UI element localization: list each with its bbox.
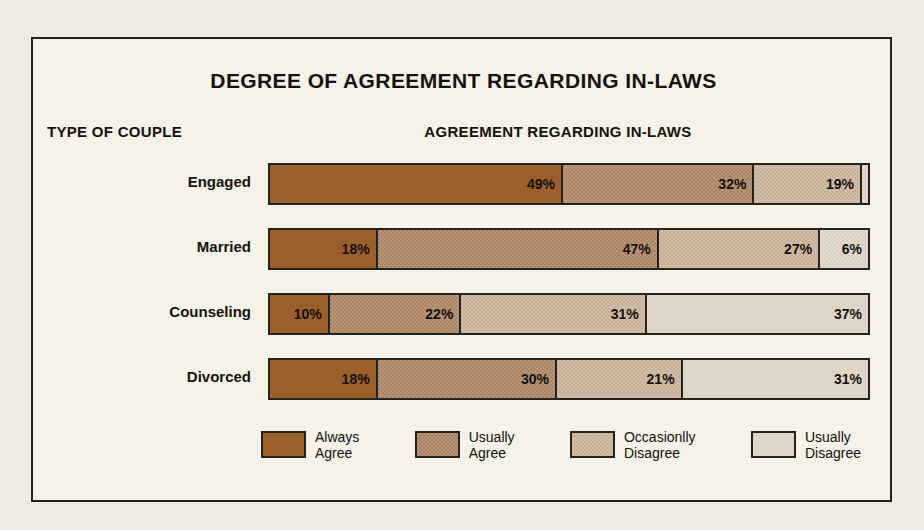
bar-segment-occasionally-disagree[interactable]: 21% xyxy=(557,360,683,398)
bar-row-label: Engaged xyxy=(33,173,251,190)
bar-segment-value: 47% xyxy=(623,241,651,257)
y-axis-title: TYPE OF COUPLE xyxy=(47,123,182,140)
bar-segment-value: 27% xyxy=(784,241,812,257)
bar-segment-value: 30% xyxy=(521,371,549,387)
bar-track: 10% 22% 31% 37% xyxy=(268,293,870,335)
bar-row: Engaged 49% 32% 19% 1 xyxy=(33,163,894,205)
legend-swatch-icon xyxy=(261,431,306,458)
bar-track: 18% 30% 21% 31% xyxy=(268,358,870,400)
bar-segment-always-agree[interactable]: 18% xyxy=(270,360,378,398)
legend-item-occasionally-disagree[interactable]: Occasionlly Disagree xyxy=(570,429,696,481)
bar-row-label: Divorced xyxy=(33,368,251,385)
bar-segment-value: 37% xyxy=(834,306,862,322)
legend-item-usually-disagree[interactable]: Usually Disagree xyxy=(751,429,861,481)
axis-header-row: TYPE OF COUPLE AGREEMENT REGARDING IN-LA… xyxy=(33,123,894,143)
bar-segment-always-agree[interactable]: 18% xyxy=(270,230,378,268)
legend-label-line1: Usually xyxy=(469,429,515,445)
bar-row: Married 18% 47% 27% 6% xyxy=(33,228,894,270)
bar-segment-usually-agree[interactable]: 22% xyxy=(330,295,462,333)
bar-segment-always-agree[interactable]: 49% xyxy=(270,165,563,203)
legend-label-line1: Usually xyxy=(805,429,861,445)
bar-segment-occasionally-disagree[interactable]: 19% xyxy=(754,165,862,203)
legend-swatch-icon xyxy=(751,431,796,458)
bar-segment-always-agree[interactable]: 10% xyxy=(270,295,330,333)
bar-segment-value: 31% xyxy=(611,306,639,322)
chart-panel: DEGREE OF AGREEMENT REGARDING IN-LAWS TY… xyxy=(31,37,892,502)
legend-label-line2: Disagree xyxy=(805,445,861,461)
bar-segment-value: 49% xyxy=(527,176,555,192)
bar-segment-usually-disagree[interactable]: 31% xyxy=(683,360,868,398)
legend-label: Occasionlly Disagree xyxy=(624,429,696,461)
legend-label-line1: Always xyxy=(315,429,359,445)
bar-segment-value: 22% xyxy=(425,306,453,322)
bar-segment-usually-agree[interactable]: 32% xyxy=(563,165,754,203)
bar-segment-value: 21% xyxy=(647,371,675,387)
bar-segment-occasionally-disagree[interactable]: 31% xyxy=(461,295,646,333)
bar-segment-value: 6% xyxy=(842,241,862,257)
x-axis-title: AGREEMENT REGARDING IN-LAWS xyxy=(258,123,858,140)
legend-item-always-agree[interactable]: Always Agree xyxy=(261,429,359,481)
legend-swatch-icon xyxy=(415,431,460,458)
bar-segment-occasionally-disagree[interactable]: 27% xyxy=(659,230,820,268)
legend-label-line1: Occasionlly xyxy=(624,429,696,445)
bar-track: 49% 32% 19% 1 xyxy=(268,163,870,205)
bar-segment-usually-disagree[interactable]: 37% xyxy=(647,295,868,333)
legend-label-line2: Agree xyxy=(469,445,515,461)
chart-legend: Always Agree Usually Agree Occasionlly D… xyxy=(261,429,861,481)
chart-title: DEGREE OF AGREEMENT REGARDING IN-LAWS xyxy=(33,69,894,93)
legend-swatch-icon xyxy=(570,431,615,458)
bar-segment-usually-agree[interactable]: 30% xyxy=(378,360,557,398)
bar-segment-usually-disagree[interactable]: 6% xyxy=(820,230,868,268)
bar-segment-value: 31% xyxy=(834,371,862,387)
legend-label: Always Agree xyxy=(315,429,359,461)
legend-label: Usually Disagree xyxy=(805,429,861,461)
legend-label-line2: Agree xyxy=(315,445,359,461)
bar-row: Divorced 18% 30% 21% 31% xyxy=(33,358,894,400)
bar-segment-value: 19% xyxy=(826,176,854,192)
legend-item-usually-agree[interactable]: Usually Agree xyxy=(415,429,515,481)
bar-segment-value: 18% xyxy=(342,241,370,257)
legend-label: Usually Agree xyxy=(469,429,515,461)
bar-segment-usually-agree[interactable]: 47% xyxy=(378,230,659,268)
bar-segment-value: 32% xyxy=(718,176,746,192)
bar-segment-value: 10% xyxy=(294,306,322,322)
legend-label-line2: Disagree xyxy=(624,445,696,461)
bar-segment-value: 18% xyxy=(342,371,370,387)
bar-row: Counseling 10% 22% 31% 37% xyxy=(33,293,894,335)
bar-segment-usually-disagree[interactable]: 1 xyxy=(862,165,868,203)
bar-track: 18% 47% 27% 6% xyxy=(268,228,870,270)
bar-row-label: Counseling xyxy=(33,303,251,320)
bar-row-label: Married xyxy=(33,238,251,255)
